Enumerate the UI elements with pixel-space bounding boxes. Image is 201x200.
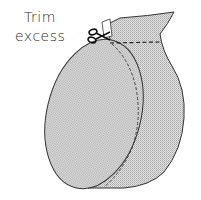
trim-label: Trim [24, 10, 56, 24]
excess-label: excess [15, 29, 65, 43]
diagram: Trim excess [0, 0, 201, 200]
